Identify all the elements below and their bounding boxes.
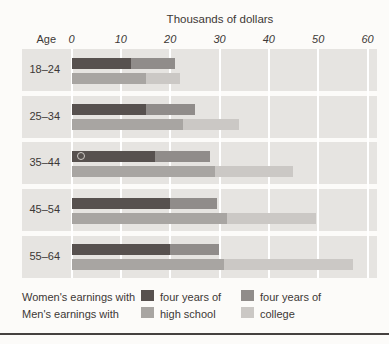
bar-women-high-school — [72, 58, 131, 69]
bar-men-high-school — [72, 73, 146, 84]
bar-women-college — [155, 151, 209, 162]
legend-row-women-label: Women's earnings with — [22, 291, 135, 303]
legend-col1-line2: high school — [160, 308, 216, 320]
age-label: 18–24 — [20, 63, 60, 77]
x-tick-label: 0 — [57, 33, 87, 45]
bar-women-high-school — [72, 104, 146, 115]
age-label: 25–34 — [20, 110, 60, 124]
bar-men-high-school — [72, 166, 215, 177]
x-tick-label: 10 — [106, 33, 136, 45]
age-axis-label: Age — [18, 33, 56, 45]
legend-swatch-men-high-school — [141, 307, 154, 318]
legend-col2-line1: four years of — [260, 291, 321, 303]
bar-women-college — [146, 104, 195, 115]
gridline — [367, 49, 369, 278]
age-band — [22, 49, 377, 91]
age-band — [22, 236, 377, 278]
bar-men-high-school — [72, 119, 183, 130]
age-band — [22, 96, 377, 138]
x-tick-label: 60 — [353, 33, 383, 45]
gridline — [317, 49, 319, 278]
bar-men-college — [227, 213, 316, 224]
bar-women-college — [170, 198, 217, 209]
x-tick-label: 30 — [205, 33, 235, 45]
bar-women-college — [170, 244, 219, 255]
bar-men-high-school — [72, 213, 227, 224]
legend-swatch-women-college — [241, 290, 254, 301]
legend-row-men-label: Men's earnings with — [22, 308, 119, 320]
bar-women-high-school — [72, 244, 171, 255]
age-label: 55–64 — [20, 250, 60, 264]
bar-men-college — [215, 166, 294, 177]
gridline — [268, 49, 270, 278]
print-artifact-circle — [77, 152, 85, 160]
legend-col1-line1: four years of — [160, 291, 221, 303]
earnings-bar-chart-figure: Thousands of dollars Age 18–2425–3435–44… — [0, 0, 389, 344]
legend-swatch-men-college — [241, 307, 254, 318]
x-tick-label: 20 — [155, 33, 185, 45]
age-band — [22, 189, 377, 231]
age-label: 35–44 — [20, 156, 60, 170]
bar-men-college — [146, 73, 181, 84]
bar-women-high-school — [72, 198, 171, 209]
bar-men-college — [224, 259, 352, 270]
bar-men-college — [183, 119, 240, 130]
chart-title: Thousands of dollars — [72, 13, 368, 25]
x-tick-label: 50 — [303, 33, 333, 45]
legend-swatch-women-high-school — [141, 290, 154, 301]
bar-women-college — [131, 58, 175, 69]
figure-bottom-rule — [0, 333, 389, 335]
legend-col2-line2: college — [260, 308, 295, 320]
age-band — [22, 142, 377, 184]
x-tick-label: 40 — [254, 33, 284, 45]
bar-men-high-school — [72, 259, 225, 270]
age-label: 45–54 — [20, 203, 60, 217]
